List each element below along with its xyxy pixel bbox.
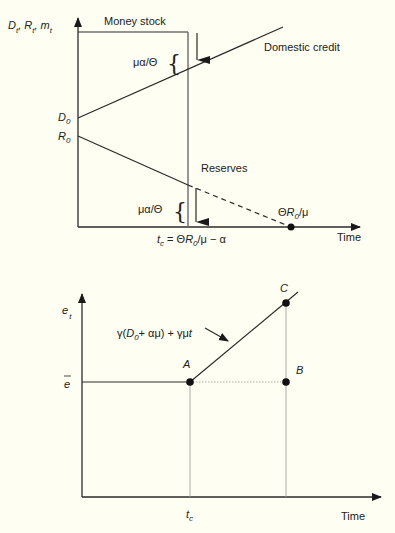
bottom-chart: et e γ(D0+ αμ) + γμt A B C tc Time xyxy=(62,282,381,523)
top-y-axis-label: Dt,Rt,mt xyxy=(8,19,53,35)
shadow-rate-line xyxy=(190,292,298,382)
lower-jump-label: μα/Θ xyxy=(138,203,163,215)
speculative-attack-diagram: Dt,Rt,mt Money stock Domestic credit Res… xyxy=(0,0,395,533)
domestic-credit-label: Domestic credit xyxy=(264,41,340,53)
exhaustion-label: ΘR0/μ xyxy=(278,206,308,221)
reserves-label: Reserves xyxy=(201,162,248,174)
point-a-label: A xyxy=(182,358,190,370)
ebar-label: e xyxy=(64,378,70,390)
point-b-label: B xyxy=(296,364,303,376)
bottom-y-axis-label: et xyxy=(62,304,72,321)
tc-label-bottom: tc xyxy=(186,508,193,523)
point-c xyxy=(282,299,290,307)
formula-pointer-arrow xyxy=(205,328,228,341)
money-stock-label: Money stock xyxy=(104,15,166,27)
bottom-x-axis-label: Time xyxy=(341,510,365,522)
shadow-rate-formula: γ(D0+ αμ) + γμt xyxy=(117,327,193,342)
point-b xyxy=(282,378,290,386)
reserves-projected-line xyxy=(188,185,291,227)
reserve-exhaustion-point xyxy=(288,224,295,231)
upper-jump-label: μα/Θ xyxy=(133,56,158,68)
point-c-label: C xyxy=(280,282,288,294)
r0-label: R0 xyxy=(58,130,71,145)
reserves-line xyxy=(78,136,188,185)
tc-formula-label: tc = ΘR0/μ − α xyxy=(157,233,226,248)
point-a xyxy=(186,378,194,386)
top-chart: Dt,Rt,mt Money stock Domestic credit Res… xyxy=(8,15,361,248)
lower-brace: { xyxy=(173,199,187,224)
d0-label: D0 xyxy=(58,111,71,126)
upper-brace: { xyxy=(167,51,181,76)
top-x-axis-label: Time xyxy=(337,231,361,243)
